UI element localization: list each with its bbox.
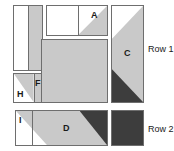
row-2-label: Row 2: [148, 125, 174, 134]
piece-dark-square: [111, 110, 144, 146]
piece-a: [46, 5, 108, 36]
piece-c: [111, 5, 144, 103]
piece-left-bar: [13, 5, 43, 71]
piece-a-white-rect: [47, 6, 78, 35]
piece-d-dark-triangle: [80, 111, 107, 145]
left-bar-gray-half: [28, 6, 42, 70]
row-1-label: Row 1: [148, 45, 174, 54]
piece-i-seam: [32, 111, 33, 145]
piece-c-dark-corner: [112, 69, 143, 102]
piece-center-square: [41, 39, 108, 103]
piece-c-white-corner: [112, 6, 143, 39]
left-bar-seam: [28, 6, 29, 70]
piece-h-f-unit: [13, 73, 43, 103]
piece-a-seam: [78, 6, 79, 35]
left-bar-white-half: [14, 6, 28, 70]
piece-f-seam: [34, 74, 35, 102]
piece-d: [15, 110, 108, 146]
quilt-block-diagram: H F A C Row 1 I D Row 2: [0, 0, 174, 151]
